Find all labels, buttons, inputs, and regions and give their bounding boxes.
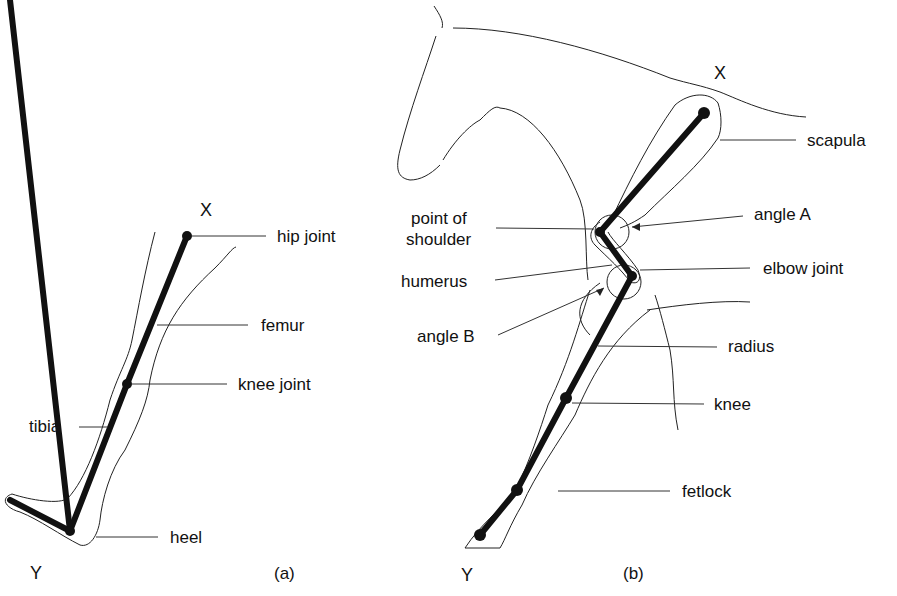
knee-leader: [572, 403, 704, 404]
knee-joint-label: knee joint: [238, 375, 311, 394]
point-of-shoulder-dot: [595, 227, 605, 237]
humerus-leader: [495, 265, 612, 280]
knee-label: knee: [714, 395, 751, 414]
angle-a-arrow: [632, 216, 743, 227]
knee-dot: [560, 392, 572, 404]
point-of-shoulder-label-1: point of: [411, 209, 467, 228]
tibia-label: tibia: [29, 417, 61, 436]
elbow-joint-dot: [627, 271, 637, 281]
caption-b: (b): [623, 564, 644, 583]
figure-a-human-leg: X hip joint femur knee joint tibia heel …: [5, 0, 336, 583]
hoof-dot: [474, 529, 486, 541]
end-y-label-b: Y: [461, 565, 473, 585]
heel-dot: [65, 526, 75, 536]
angle-b-arrow: [498, 288, 604, 335]
heel-label: heel: [170, 528, 202, 547]
end-x-label-b: X: [714, 63, 726, 83]
fetlock-label: fetlock: [682, 482, 732, 501]
point-of-shoulder-leader: [496, 228, 594, 229]
hip-joint-label: hip joint: [277, 227, 336, 246]
radius-label: radius: [728, 337, 774, 356]
femur-label: femur: [261, 316, 305, 335]
foot-bone-line: [10, 500, 70, 531]
radius-leader: [598, 346, 717, 347]
foot-bone: [10, 0, 70, 531]
horse-neck-outline: [434, 6, 806, 117]
elbow-joint-leader: [640, 268, 750, 270]
scapula-top-dot: [698, 107, 710, 119]
elbow-joint-label: elbow joint: [763, 259, 844, 278]
humerus-label: humerus: [401, 272, 467, 291]
angle-a-label: angle A: [754, 205, 811, 224]
point-of-shoulder-label-2: shoulder: [406, 230, 472, 249]
end-y-label-a: Y: [30, 563, 42, 583]
angle-b-label: angle B: [417, 327, 475, 346]
knee-joint-dot: [122, 379, 132, 389]
fetlock-dot: [511, 484, 523, 496]
hip-joint-dot: [182, 231, 192, 241]
scapula-label: scapula: [807, 131, 866, 150]
angle-a-arrowhead: [632, 223, 640, 231]
forelimb-bones: [480, 113, 704, 535]
end-x-label-a: X: [200, 200, 212, 220]
caption-a: (a): [274, 564, 295, 583]
figure-b-horse-forelimb: X scapula point of shoulder angle A hume…: [398, 6, 866, 585]
angle-b-arrowhead: [596, 288, 604, 296]
limb-comparison-diagram: X hip joint femur knee joint tibia heel …: [0, 0, 897, 596]
